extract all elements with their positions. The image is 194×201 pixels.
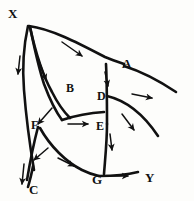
curve-f-to-g [40, 128, 99, 176]
curve-x-inner-left [30, 27, 62, 120]
arrow-c-tail-down [22, 164, 24, 184]
label-f: F [31, 119, 38, 131]
arrow-e-g-down [110, 134, 112, 150]
label-b: B [66, 82, 74, 94]
curve-a-to-right-end [124, 66, 176, 92]
arrow-outer-left-flow [18, 56, 20, 74]
label-e: E [96, 120, 104, 132]
label-x: X [8, 7, 17, 20]
curve-e-g-vertical [104, 124, 107, 174]
surface-boundary-curves [23, 26, 176, 187]
curve-d-to-right [107, 96, 158, 136]
label-g: G [92, 173, 102, 186]
arrow-c-inward [34, 148, 48, 160]
curve-b-lower-left [30, 27, 70, 118]
arrow-a-right-flow [132, 94, 152, 98]
label-y: Y [145, 171, 154, 184]
label-d: D [97, 90, 106, 102]
curve-x-to-a [29, 26, 124, 64]
figure-canvas: XAYCG BDEF [0, 0, 194, 201]
label-c: C [29, 183, 38, 196]
arrow-to-f [38, 108, 52, 124]
arrow-d-right-lower [122, 114, 134, 130]
label-a: A [122, 57, 131, 70]
curve-d-vertical [106, 64, 107, 124]
